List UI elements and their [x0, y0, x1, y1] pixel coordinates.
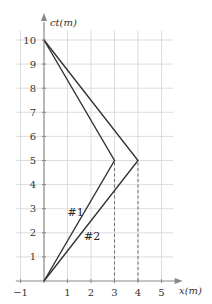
y-axis-label: ct(m) [50, 17, 77, 28]
spacetime-diagram: −11234512345678910 x(m) ct(m) #1#2 [0, 0, 212, 304]
x-tick-label: 5 [158, 287, 164, 298]
axes [16, 13, 183, 284]
x-axis-label: x(m) [179, 285, 202, 296]
x-tick-label: 3 [111, 287, 117, 298]
y-tick-label: 1 [30, 251, 36, 262]
x-tick-label: −1 [13, 287, 28, 298]
y-tick-label: 2 [30, 227, 36, 238]
series-label: #1 [68, 206, 84, 219]
y-tick-label: 8 [30, 83, 36, 94]
y-tick-label: 3 [30, 203, 36, 214]
tick-labels: −11234512345678910 [13, 35, 165, 299]
series-labels: #1#2 [68, 206, 101, 243]
y-tick-label: 6 [30, 131, 36, 142]
y-tick-label: 10 [23, 35, 36, 46]
x-axis-arrow-icon [175, 278, 183, 284]
series-label: #2 [84, 230, 100, 243]
grid-lines [16, 30, 173, 281]
y-tick-label: 9 [30, 59, 36, 70]
y-axis-arrow-icon [41, 13, 47, 21]
y-tick-label: 4 [30, 179, 36, 190]
y-tick-label: 5 [30, 155, 36, 166]
x-tick-label: 1 [64, 287, 70, 298]
x-tick-label: 4 [135, 287, 141, 298]
dashed-guides [115, 161, 139, 282]
x-tick-label: 2 [88, 287, 94, 298]
y-tick-label: 7 [30, 107, 36, 118]
